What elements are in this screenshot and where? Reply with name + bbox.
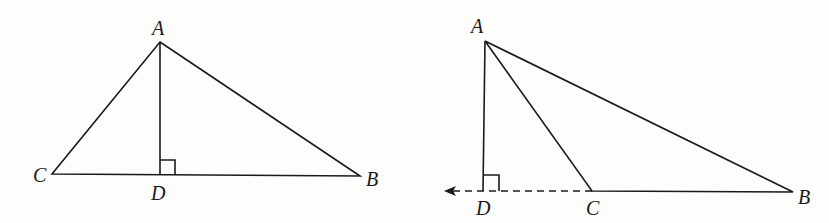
label-c-left: C <box>33 164 47 186</box>
label-d-right: D <box>475 197 491 219</box>
label-a-right: A <box>469 15 484 37</box>
label-d-left: D <box>150 182 166 204</box>
right-angle-marker-right <box>483 175 499 191</box>
figure-obtuse-triangle: A D C B <box>444 15 810 219</box>
right-angle-marker-left <box>160 160 175 175</box>
triangle-abc-left <box>52 42 360 176</box>
triangle-abc-right <box>485 41 793 192</box>
figure-acute-triangle: A C D B <box>33 17 378 204</box>
label-b-left: B <box>366 168 378 190</box>
altitude-ad-right <box>483 41 485 191</box>
label-c-right: C <box>586 197 600 219</box>
label-a-left: A <box>150 17 165 39</box>
geometry-diagram: A C D B A D C B <box>0 0 829 223</box>
label-b-right: B <box>798 186 810 208</box>
